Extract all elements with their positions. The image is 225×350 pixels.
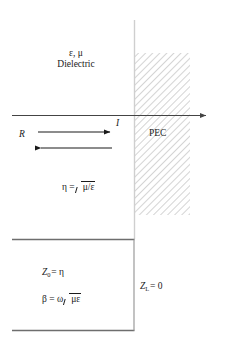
pec-label: PEC — [149, 128, 166, 139]
load-impedance-equation: ZL = 0 — [140, 281, 163, 292]
diagram-canvas — [0, 0, 225, 350]
incident-wave-label: I — [116, 118, 119, 129]
beta-radicand: με — [69, 293, 81, 305]
z0-rhs: = η — [51, 267, 64, 277]
eta-radicand: μ/ε — [81, 181, 96, 193]
eta-radical: μ/ε — [75, 181, 96, 193]
characteristic-impedance-equation: Z0 = η — [42, 267, 64, 278]
plane-wave-pec-diagram: ε, μ Dielectric I R PEC η =μ/ε Z0 = η β … — [0, 0, 225, 350]
beta-radical: με — [63, 293, 81, 305]
medium-name: Dielectric — [57, 59, 94, 70]
medium-params: ε, μ — [57, 48, 94, 59]
radical-tick-icon — [75, 187, 83, 193]
beta-lhs: β = ω — [42, 294, 63, 304]
zl-rhs: = 0 — [150, 281, 162, 291]
medium-label: ε, μ Dielectric — [57, 48, 94, 69]
intrinsic-impedance-equation: η =μ/ε — [62, 181, 95, 193]
phase-constant-equation: β = ωμε — [42, 293, 81, 305]
zl-subscript: L — [145, 285, 149, 292]
eta-lhs: η = — [62, 182, 75, 192]
reflected-wave-label: R — [19, 129, 25, 140]
